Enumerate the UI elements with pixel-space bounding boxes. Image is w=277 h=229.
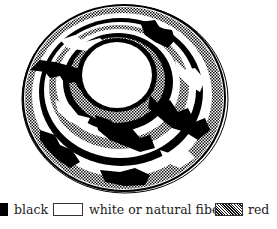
legend-label-red: red bbox=[248, 202, 269, 218]
legend-swatch-black bbox=[0, 203, 8, 216]
legend: black white or natural fiber red bbox=[0, 202, 277, 220]
legend-swatch-red bbox=[215, 203, 243, 216]
legend-label-white: white or natural fiber bbox=[89, 202, 225, 218]
basket-drawing bbox=[0, 0, 277, 195]
legend-label-black: black bbox=[14, 202, 48, 218]
legend-swatch-white bbox=[53, 203, 83, 216]
basket-illustration bbox=[0, 0, 277, 195]
